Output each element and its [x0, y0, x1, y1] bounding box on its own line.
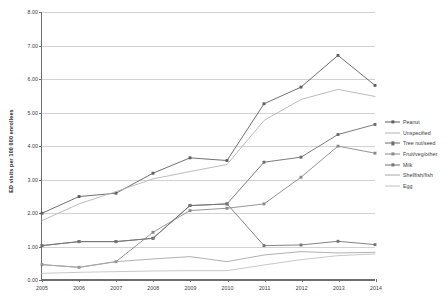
data-point [226, 159, 229, 162]
legend-item[interactable]: Egg [385, 181, 447, 192]
y-tick-label: 2.00 [28, 210, 39, 216]
series-line [42, 252, 375, 268]
data-point [152, 231, 155, 234]
y-tick-label: 7.00 [28, 43, 39, 49]
legend-item[interactable]: Unspecified [385, 128, 447, 139]
y-axis-title: ED visits per 100 000 enrollees [8, 109, 14, 192]
y-tick-label: 6.00 [28, 76, 39, 82]
legend-marker-icon [391, 121, 394, 124]
y-tick-label: 4.00 [28, 143, 39, 149]
x-tick-mark [79, 279, 80, 282]
x-tick-label: 2005 [36, 285, 48, 291]
chart-figure: ED visits per 100 000 enrollees 0.001.00… [0, 0, 447, 302]
legend-label: Shellfish/fish [403, 172, 433, 178]
legend-marker-icon [391, 163, 394, 166]
x-tick-label: 2012 [296, 285, 308, 291]
series-peanut [41, 54, 377, 215]
data-point [189, 209, 192, 212]
legend-label: Tree nut/seed [403, 140, 435, 146]
legend-swatch-icon [385, 117, 400, 127]
legend-item[interactable]: Peanut [385, 117, 447, 128]
data-point [189, 156, 192, 159]
data-point [78, 195, 81, 198]
data-point [152, 237, 155, 240]
legend-marker-icon [391, 142, 394, 145]
data-point [226, 202, 229, 205]
gridline [42, 280, 375, 281]
x-tick-mark [153, 279, 154, 282]
data-point [300, 244, 303, 247]
series-line [42, 55, 375, 213]
y-tick-label: 5.00 [28, 110, 39, 116]
data-point [189, 204, 192, 207]
x-tick-label: 2006 [73, 285, 85, 291]
data-point [41, 244, 44, 247]
legend-label: Unspecified [403, 130, 431, 136]
x-tick-mark [265, 279, 266, 282]
data-point [78, 240, 81, 243]
x-tick-mark [302, 279, 303, 282]
x-tick-mark [228, 279, 229, 282]
y-tick-label: 1.00 [28, 244, 39, 250]
x-tick-label: 2009 [184, 285, 196, 291]
data-point [374, 243, 377, 246]
series-line [42, 146, 375, 267]
legend-item[interactable]: Milk [385, 159, 447, 170]
data-point [263, 244, 266, 247]
legend-line-icon [385, 132, 400, 133]
data-point [152, 172, 155, 175]
data-point [374, 152, 377, 155]
series-egg [42, 254, 375, 273]
legend-label: Milk [403, 162, 412, 168]
data-point [263, 161, 266, 164]
x-tick-label: 2008 [147, 285, 159, 291]
data-point [337, 240, 340, 243]
legend-label: Peanut [403, 119, 420, 125]
data-point [337, 54, 340, 57]
legend-marker-icon [391, 152, 394, 155]
y-tick-label: 8.00 [28, 9, 39, 15]
chart-legend: PeanutUnspecifiedTree nut/seedFruit/veg/… [385, 117, 447, 191]
legend-label: Fruit/veg/other [403, 151, 437, 157]
data-point [337, 133, 340, 136]
x-tick-label: 2014 [370, 285, 382, 291]
data-point [300, 156, 303, 159]
legend-item[interactable]: Tree nut/seed [385, 138, 447, 149]
x-tick-label: 2013 [333, 285, 345, 291]
legend-swatch-icon [385, 128, 400, 138]
legend-item[interactable]: Fruit/veg/other [385, 149, 447, 160]
x-tick-label: 2007 [110, 285, 122, 291]
x-tick-label: 2010 [222, 285, 234, 291]
plot-area: 0.001.002.003.004.005.006.007.008.00 200… [41, 12, 375, 280]
series-shellfish-fish [42, 252, 375, 268]
x-tick-mark [42, 279, 43, 282]
x-tick-label: 2011 [259, 285, 271, 291]
x-tick-mark [339, 279, 340, 282]
data-point [337, 145, 340, 148]
y-tick-label: 0.00 [28, 277, 39, 283]
legend-swatch-icon [385, 170, 400, 180]
data-point [41, 212, 44, 215]
x-tick-mark [376, 279, 377, 282]
legend-item[interactable]: Shellfish/fish [385, 170, 447, 181]
data-point [300, 86, 303, 89]
data-point [374, 123, 377, 126]
series-unspecified [42, 89, 375, 220]
data-point [300, 176, 303, 179]
legend-line-icon [385, 175, 400, 176]
data-point [115, 240, 118, 243]
series-line [42, 254, 375, 273]
series-tree-nut-seed [41, 123, 377, 247]
series-lines [42, 12, 375, 279]
y-tick-label: 3.00 [28, 177, 39, 183]
series-line [42, 89, 375, 220]
data-point [263, 202, 266, 205]
series-line [42, 124, 375, 245]
data-point [263, 102, 266, 105]
legend-swatch-icon [385, 160, 400, 170]
series-fruit-veg-other [41, 145, 377, 269]
legend-swatch-icon [385, 181, 400, 191]
x-tick-mark [116, 279, 117, 282]
legend-swatch-icon [385, 149, 400, 159]
legend-line-icon [385, 185, 400, 186]
